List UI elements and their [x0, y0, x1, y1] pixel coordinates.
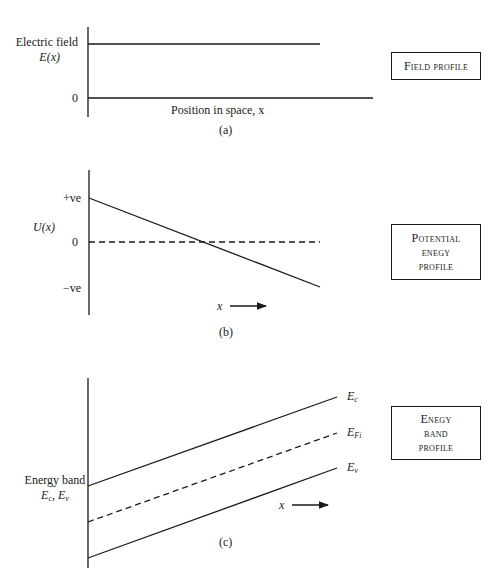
panel-a-zero-label: 0 [72, 91, 78, 105]
panel-c-caption: (c) [219, 535, 232, 549]
band-box-line3: profile [419, 440, 454, 454]
ev-curve-label: Ev [347, 460, 358, 478]
ev-curve-subscript: v [354, 466, 358, 475]
panel-c-x-arrow-label: x [279, 498, 284, 512]
intrinsic-fermi-level-line [88, 433, 337, 522]
panel-a-y-label-line1: Electric field [2, 35, 78, 49]
panel-a-x-label: Position in space, x [171, 103, 264, 117]
panel-b-tick-zero: 0 [72, 235, 78, 249]
field-profile-box-line1: Field profile [404, 59, 468, 73]
panel-a-y-label-line2: E(x) [2, 50, 78, 64]
panel-b-tick-pos: +ve [63, 191, 81, 205]
panel-c-y-label-line2: Ec, Ev [18, 488, 92, 506]
panel-a-caption: (a) [219, 123, 232, 137]
potential-box-line1: Potential [412, 231, 461, 245]
energy-band-profile-box: Enegy band profile [391, 406, 481, 460]
panel-b-x-arrow-label: x [217, 299, 222, 313]
ev-subscript: v [65, 494, 69, 503]
panel-c-y-label-line1: Energy band [18, 473, 92, 487]
panel-c-y-label: Energy band Ec, Ev [18, 473, 92, 506]
field-profile-box: Field profile [391, 52, 481, 80]
conduction-band-line [88, 397, 337, 486]
panel-a-y-label: Electric field E(x) [2, 35, 78, 64]
panel-a-x-label-text: Position in space, x [171, 103, 264, 117]
ec-curve-label: Ec [347, 389, 358, 407]
panel-b-tick-neg: −ve [63, 281, 81, 295]
valence-band-line [88, 468, 337, 558]
panel-c-lines [88, 378, 337, 568]
band-box-line2: band [424, 426, 448, 440]
panel-b-caption: (b) [219, 325, 233, 339]
potential-box-line3: profile [419, 259, 454, 273]
efi-curve-label: EFi [347, 425, 361, 443]
band-box-line1: Enegy [420, 412, 451, 426]
panel-b-y-label: U(x) [33, 220, 55, 234]
panel-b-lines [89, 170, 320, 315]
efi-curve-subscript: Fi [354, 431, 361, 440]
potential-box-line2: enegy [422, 245, 451, 259]
ec-curve-subscript: c [354, 395, 358, 404]
potential-energy-profile-box: Potential enegy profile [391, 224, 481, 280]
